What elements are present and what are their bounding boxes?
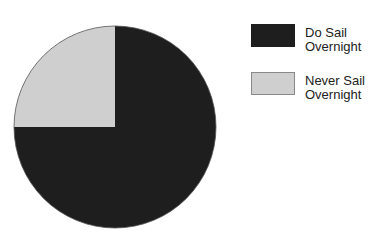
pie-chart	[0, 0, 240, 238]
legend-swatch-do-sail	[251, 24, 295, 47]
legend-label-do-sail: Do Sail Overnight	[305, 26, 361, 54]
legend-item-do-sail: Do Sail Overnight	[251, 24, 361, 54]
legend-swatch-never-sail	[251, 72, 295, 95]
legend-label-line: Overnight	[305, 88, 365, 102]
legend-label-line: Never Sail	[305, 74, 365, 88]
legend-item-never-sail: Never Sail Overnight	[251, 72, 365, 102]
legend-label-line: Do Sail	[305, 26, 361, 40]
legend-label-line: Overnight	[305, 40, 361, 54]
pie-slice-never-sail-overnight	[14, 26, 115, 127]
legend-label-never-sail: Never Sail Overnight	[305, 74, 365, 102]
